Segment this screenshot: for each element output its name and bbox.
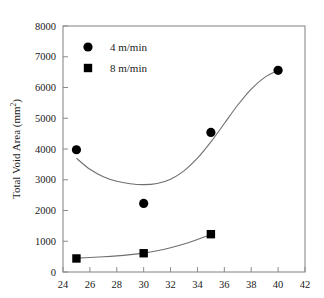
x-tick-label: 26 [85,279,96,290]
x-tick-label: 32 [165,279,176,290]
legend-label: 8 m/min [110,62,147,74]
y-tick-label: 8000 [35,21,56,32]
plot-area-border [63,26,305,272]
plot-frame [63,26,305,272]
y-tick-label: 4000 [35,144,56,155]
legend-marker-square [84,64,92,72]
fit-curves [76,70,278,258]
y-axis-title: Total Void Area (mm2) [9,99,23,199]
x-tick-label: 28 [112,279,123,290]
y-tick-label: 0 [51,267,56,278]
fit-curve-series-0 [76,70,278,184]
y-tick-label: 2000 [35,205,56,216]
x-axis-tick-labels: 24262830323436384042 [58,279,311,290]
data-point-markers [72,66,283,263]
y-tick-label: 7000 [35,51,56,62]
y-axis-ticks [63,26,68,272]
chart-legend: 4 m/min8 m/min [83,41,147,74]
data-marker-circle [72,145,81,154]
data-marker-circle [206,128,215,137]
x-tick-label: 24 [58,279,69,290]
x-tick-label: 40 [273,279,284,290]
y-tick-label: 1000 [35,236,56,247]
y-tick-label: 6000 [35,82,56,93]
y-axis-title-close: ) [10,99,23,103]
legend-label: 4 m/min [110,41,147,53]
chart-figure: 24262830323436384042 0100020003000400050… [0,0,324,298]
y-axis-title-text: Total Void Area (mm [10,106,23,199]
x-axis-ticks [63,267,305,272]
void-area-scatter-chart: 24262830323436384042 0100020003000400050… [0,0,324,298]
y-tick-label: 3000 [35,174,56,185]
x-tick-label: 34 [192,279,203,290]
y-axis-tick-labels: 010002000300040005000600070008000 [35,21,56,278]
x-tick-label: 42 [300,279,311,290]
svg-text:Total Void Area (mm2): Total Void Area (mm2) [9,99,23,199]
data-marker-square [72,254,80,262]
y-tick-label: 5000 [35,113,56,124]
data-marker-circle [274,66,283,75]
legend-marker-circle [83,42,92,51]
data-marker-circle [139,199,148,208]
x-tick-label: 36 [219,279,230,290]
x-tick-label: 30 [138,279,149,290]
data-marker-square [139,249,147,257]
data-marker-square [207,230,215,238]
x-tick-label: 38 [246,279,257,290]
